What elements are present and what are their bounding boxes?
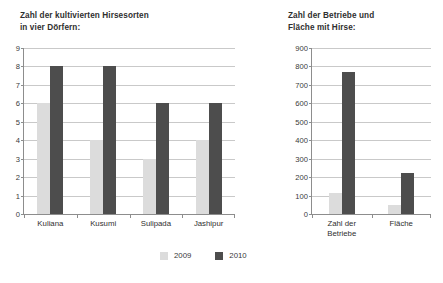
chart-panel-left: Zahl der kultivierten Hirsesorten in vie… (0, 0, 250, 283)
bar-2010 (209, 103, 222, 214)
left-plot-area: 0123456789 KulianaKusumiSulipadaJashipur (23, 48, 235, 215)
y-axis-tick-label: 6 (16, 99, 20, 108)
y-axis-tick-label: 0 (304, 210, 308, 219)
y-axis-tick-label: 900 (295, 44, 308, 53)
bar-2009 (37, 103, 50, 214)
bar-2010 (156, 103, 169, 214)
y-axis-tick-label: 400 (295, 136, 308, 145)
x-axis-tick-mark (430, 214, 431, 218)
y-axis-tick-label: 7 (16, 80, 20, 89)
bar-2009 (388, 205, 401, 214)
x-axis-tick-mark (130, 214, 131, 218)
bar-group: Zahl der Betriebe (312, 48, 372, 214)
y-axis-tick-label: 1 (16, 191, 20, 200)
y-axis-tick-label: 2 (16, 173, 20, 182)
y-axis-tick-label: 700 (295, 80, 308, 89)
right-bars: Zahl der BetriebeFläche (312, 48, 431, 214)
legend-label-2009: 2009 (174, 251, 191, 260)
y-axis-tick-label: 3 (16, 154, 20, 163)
x-axis-category-label: Fläche (366, 219, 436, 229)
x-axis-tick-mark (24, 214, 25, 218)
y-axis-tick-label: 500 (295, 117, 308, 126)
y-axis-tick-label: 100 (295, 191, 308, 200)
right-plot-area: 0100200300400500600700800900 Zahl der Be… (311, 48, 431, 215)
chart-legend: 2009 2010 (160, 251, 247, 260)
y-axis-tick-label: 300 (295, 154, 308, 163)
bar-2010 (401, 173, 414, 215)
y-axis-tick-label: 800 (295, 62, 308, 71)
legend-item-2010: 2010 (215, 251, 246, 260)
y-axis-tick-label: 8 (16, 62, 20, 71)
y-axis-tick-label: 0 (16, 210, 20, 219)
bar-group: Kusumi (77, 48, 130, 214)
x-axis-category-label: Jashipur (174, 219, 244, 229)
y-axis-tick-label: 200 (295, 173, 308, 182)
legend-item-2009: 2009 (160, 251, 191, 260)
bar-2010 (50, 66, 63, 214)
x-axis-tick-mark (312, 214, 313, 218)
left-bars: KulianaKusumiSulipadaJashipur (24, 48, 235, 214)
x-axis-tick-mark (77, 214, 78, 218)
bar-group: Kuliana (24, 48, 77, 214)
x-axis-tick-mark (372, 214, 373, 218)
bar-group: Fläche (372, 48, 432, 214)
legend-swatch-icon-2010 (215, 252, 223, 260)
right-chart-title: Zahl der Betriebe und Fläche mit Hirse: (288, 10, 438, 33)
chart-panel-right: Zahl der Betriebe und Fläche mit Hirse: … (250, 0, 443, 283)
y-axis-tick-label: 600 (295, 99, 308, 108)
left-chart-title: Zahl der kultivierten Hirsesorten in vie… (20, 10, 230, 33)
bar-group: Sulipada (130, 48, 183, 214)
legend-swatch-icon-2009 (160, 252, 168, 260)
bar-2010 (103, 66, 116, 214)
bar-2010 (342, 72, 355, 214)
y-axis-tick-label: 4 (16, 136, 20, 145)
bar-2009 (329, 193, 342, 214)
x-axis-tick-mark (182, 214, 183, 218)
bar-2009 (196, 140, 209, 214)
bar-2009 (143, 159, 156, 214)
x-axis-tick-mark (234, 214, 235, 218)
legend-label-2010: 2010 (229, 251, 246, 260)
millet-charts-figure: { "figure": { "background": "#ffffff", "… (0, 0, 443, 283)
y-axis-tick-label: 9 (16, 44, 20, 53)
y-axis-tick-label: 5 (16, 117, 20, 126)
bar-2009 (90, 140, 103, 214)
bar-group: Jashipur (182, 48, 235, 214)
